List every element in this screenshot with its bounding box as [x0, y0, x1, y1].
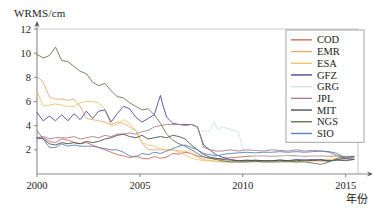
legend-label-jpl[interactable]: JPL	[317, 93, 333, 104]
chart-legend[interactable]: CODEMRESAGFZGRGJPLMITNGSSIO	[286, 30, 364, 142]
legend-label-mit[interactable]: MIT	[317, 105, 337, 116]
legend-label-sio[interactable]: SIO	[317, 128, 334, 139]
y-tick-label: 6	[26, 96, 31, 107]
y-tick-label: 10	[21, 48, 32, 59]
y-axis-ticks: 24681012	[21, 24, 38, 156]
plot-canvas: 2000200520102015 24681012 CODEMRESAGFZGR…	[0, 0, 374, 209]
legend-label-cod[interactable]: COD	[317, 34, 340, 45]
legend-label-esa[interactable]: ESA	[317, 58, 337, 69]
legend-label-grg[interactable]: GRG	[317, 81, 340, 92]
legend-label-emr[interactable]: EMR	[317, 46, 340, 57]
y-tick-label: 8	[26, 72, 31, 83]
x-tick-label: 2005	[129, 180, 150, 191]
y-tick-label: 12	[21, 24, 32, 35]
x-tick-label: 2015	[335, 180, 356, 191]
legend-label-gfz[interactable]: GFZ	[317, 70, 337, 81]
legend-label-ngs[interactable]: NGS	[317, 116, 338, 127]
x-tick-label: 2010	[232, 180, 253, 191]
y-tick-label: 2	[26, 144, 31, 155]
chart-figure: WRMS/cm 年份 2000200520102015 24681012 COD…	[0, 0, 374, 209]
y-tick-label: 4	[26, 120, 32, 131]
x-tick-label: 2000	[27, 180, 48, 191]
x-axis-ticks: 2000200520102015	[27, 174, 357, 191]
